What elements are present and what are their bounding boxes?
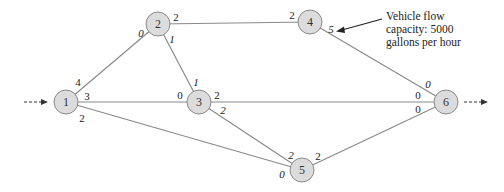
annotation-line-1: Vehicle flow bbox=[386, 10, 445, 22]
svg-text:6: 6 bbox=[443, 95, 449, 109]
cap-1-5-near-1: 2 bbox=[79, 112, 85, 124]
cap-5-6-near-6: 0 bbox=[415, 103, 421, 115]
edge-3-5 bbox=[199, 102, 302, 170]
cap-1-5-near-5: 0 bbox=[279, 168, 285, 180]
svg-text:5: 5 bbox=[299, 163, 305, 177]
annotation-line-3: gallons per hour bbox=[386, 36, 461, 49]
node-2: 2 bbox=[146, 12, 170, 36]
svg-text:1: 1 bbox=[63, 95, 69, 109]
sink-arrow-icon bbox=[464, 99, 488, 105]
cap-1-2-near-1: 4 bbox=[75, 76, 81, 88]
cap-1-3-near-3: 0 bbox=[177, 89, 183, 101]
cap-2-4-near-2: 2 bbox=[173, 11, 179, 23]
node-4: 4 bbox=[298, 10, 322, 34]
cap-2-4-near-4: 2 bbox=[289, 9, 295, 21]
annotation-line-2: capacity: 5000 bbox=[386, 23, 454, 36]
cap-3-5-near-3: 2 bbox=[220, 104, 226, 116]
edge-1-5 bbox=[66, 102, 302, 170]
cap-4-6-near-4: 5 bbox=[328, 23, 334, 35]
node-1: 1 bbox=[54, 90, 78, 114]
edge-2-4 bbox=[158, 22, 310, 24]
cap-2-3-near-3: 1 bbox=[193, 76, 199, 88]
network-flow-diagram: Vehicle flow capacity: 5000 gallons per … bbox=[0, 0, 504, 192]
cap-3-5-near-5: 2 bbox=[288, 149, 294, 161]
cap-1-2-near-2: 0 bbox=[138, 27, 144, 39]
svg-text:4: 4 bbox=[307, 15, 313, 29]
source-arrow-icon bbox=[24, 99, 48, 105]
node-3: 3 bbox=[187, 90, 211, 114]
svg-text:3: 3 bbox=[196, 95, 202, 109]
cap-5-6-near-5: 2 bbox=[315, 150, 321, 162]
cap-3-6-near-3: 2 bbox=[214, 89, 220, 101]
cap-4-6-near-6: 0 bbox=[425, 78, 431, 90]
cap-1-3-near-1: 3 bbox=[84, 90, 90, 102]
edge-1-2 bbox=[66, 24, 158, 102]
edge-5-6 bbox=[302, 102, 446, 170]
svg-text:2: 2 bbox=[155, 17, 161, 31]
node-6: 6 bbox=[434, 90, 458, 114]
cap-2-3-near-2: 1 bbox=[169, 33, 175, 45]
annotation-arrow-icon bbox=[336, 19, 382, 33]
cap-3-6-near-6: 0 bbox=[415, 89, 421, 101]
node-5: 5 bbox=[290, 158, 314, 182]
